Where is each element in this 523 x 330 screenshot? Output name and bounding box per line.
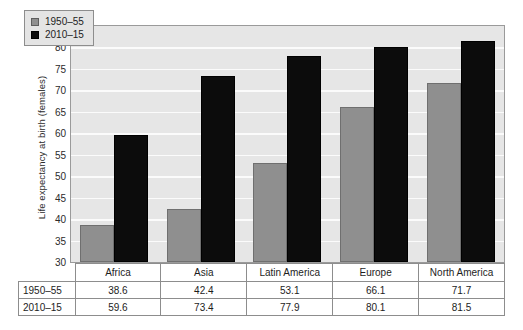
bar-africa-old <box>80 225 114 262</box>
data-table: AfricaAsiaLatin AmericaEuropeNorth Ameri… <box>18 263 505 316</box>
bar-group-asia <box>158 26 245 262</box>
table-cell: 73.4 <box>161 299 247 316</box>
y-axis-tick-labels: 303540455055606570758085 <box>40 25 66 263</box>
table-corner-cell <box>19 264 76 282</box>
table-row: 1950–5538.642.453.166.171.7 <box>19 282 505 299</box>
bar-group-europe <box>331 26 418 262</box>
table-row-header: 1950–55 <box>19 282 76 299</box>
legend-label-1950-55: 1950–55 <box>45 16 84 27</box>
y-axis-tick-35: 35 <box>40 235 66 246</box>
table-column-header-north-america: North America <box>419 264 505 282</box>
bar-europe-old <box>340 107 374 262</box>
table-column-header-asia: Asia <box>161 264 247 282</box>
y-axis-tick-45: 45 <box>40 192 66 203</box>
bar-asia-new <box>201 76 235 262</box>
plot-area <box>70 25 505 263</box>
table-cell: 81.5 <box>419 299 505 316</box>
table-cell: 77.9 <box>247 299 333 316</box>
bar-group-africa <box>71 26 158 262</box>
bar-group-north-america <box>417 26 504 262</box>
table-cell: 38.6 <box>75 282 161 299</box>
bars-layer <box>71 26 504 262</box>
chart-legend: 1950–55 2010–15 <box>24 10 94 46</box>
bar-latin-america-old <box>253 163 287 262</box>
table-cell: 59.6 <box>75 299 161 316</box>
y-axis-tick-65: 65 <box>40 106 66 117</box>
bar-asia-old <box>167 209 201 262</box>
y-axis-tick-75: 75 <box>40 63 66 74</box>
y-axis-tick-55: 55 <box>40 149 66 160</box>
bar-group-latin-america <box>244 26 331 262</box>
bar-north-america-old <box>427 83 461 262</box>
legend-swatch-icon-1950-55 <box>31 18 39 26</box>
bar-europe-new <box>374 47 408 262</box>
y-axis-tick-40: 40 <box>40 214 66 225</box>
legend-item-1950-55: 1950–55 <box>31 15 84 28</box>
table-cell: 66.1 <box>333 282 419 299</box>
y-axis-tick-60: 60 <box>40 128 66 139</box>
table-column-header-latin-america: Latin America <box>247 264 333 282</box>
table-column-header-africa: Africa <box>75 264 161 282</box>
legend-label-2010-15: 2010–15 <box>45 29 84 40</box>
legend-swatch-icon-2010-15 <box>31 31 39 39</box>
y-axis-tick-70: 70 <box>40 85 66 96</box>
y-axis-tick-50: 50 <box>40 171 66 182</box>
table-cell: 42.4 <box>161 282 247 299</box>
chart-page: Life expectancy at birth (females) 30354… <box>0 0 523 330</box>
table-column-header-europe: Europe <box>333 264 419 282</box>
legend-item-2010-15: 2010–15 <box>31 28 84 41</box>
bar-latin-america-new <box>287 56 321 262</box>
bar-north-america-new <box>461 41 495 262</box>
table-cell: 53.1 <box>247 282 333 299</box>
table-cell: 71.7 <box>419 282 505 299</box>
table-header-row: AfricaAsiaLatin AmericaEuropeNorth Ameri… <box>19 264 505 282</box>
table-row-header: 2010–15 <box>19 299 76 316</box>
table-cell: 80.1 <box>333 299 419 316</box>
table-row: 2010–1559.673.477.980.181.5 <box>19 299 505 316</box>
bar-africa-new <box>114 135 148 262</box>
